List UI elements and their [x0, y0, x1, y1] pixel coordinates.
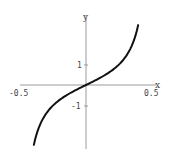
- y-axis-label: y: [82, 12, 89, 22]
- y-tick-label-neg: -1: [71, 102, 81, 111]
- plot: y x -0.5 0.5 1 -1: [0, 0, 170, 156]
- x-tick-label-neg: -0.5: [9, 89, 28, 98]
- y-tick-label-pos: 1: [77, 61, 82, 70]
- x-tick-label-pos: 0.5: [144, 89, 159, 98]
